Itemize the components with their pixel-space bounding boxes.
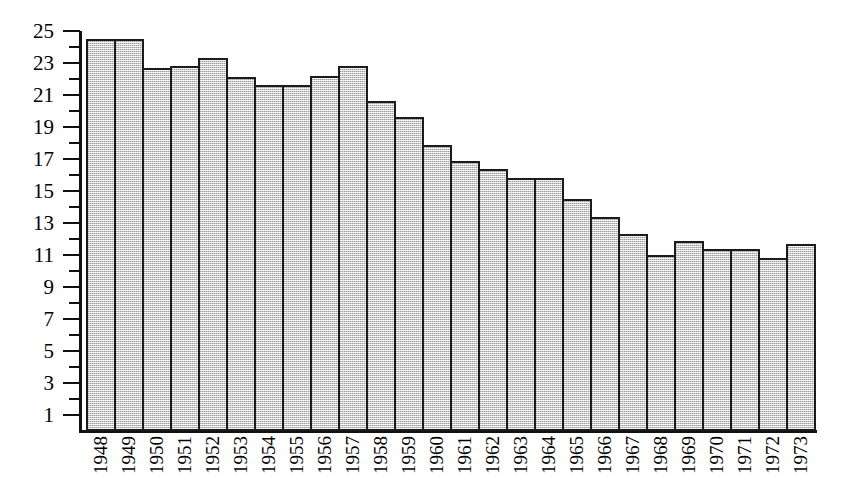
- x-axis-tick-label-text: 1952: [203, 436, 222, 474]
- x-axis-tick-label: 1957: [338, 434, 366, 494]
- x-axis-tick-label-text: 1958: [371, 436, 390, 474]
- y-axis: 135791113151719212325: [0, 0, 84, 496]
- bar-chart: 135791113151719212325 194819491950195119…: [0, 0, 843, 496]
- y-axis-tick-label: 13: [33, 213, 54, 234]
- x-axis-tick-label: 1973: [786, 434, 814, 494]
- x-axis-tick-label: 1967: [618, 434, 646, 494]
- x-axis-tick-label-text: 1954: [259, 436, 278, 474]
- x-axis-tick-label-text: 1950: [147, 436, 166, 474]
- x-axis-tick-label: 1959: [394, 434, 422, 494]
- bar: [282, 85, 312, 431]
- x-axis-tick-label: 1953: [226, 434, 254, 494]
- bar: [674, 241, 704, 431]
- y-tick-major: [63, 94, 80, 96]
- x-axis-tick-label-text: 1973: [791, 436, 810, 474]
- y-tick-major: [63, 318, 80, 320]
- bar: [142, 68, 172, 431]
- y-tick-major: [63, 30, 80, 32]
- x-axis-tick-label: 1972: [758, 434, 786, 494]
- y-axis-tick-label: 25: [33, 21, 54, 42]
- x-axis-tick-label: 1961: [450, 434, 478, 494]
- bar: [422, 145, 452, 431]
- bar: [758, 258, 788, 431]
- bar: [198, 58, 228, 431]
- bar: [338, 66, 368, 431]
- x-axis-tick-label: 1960: [422, 434, 450, 494]
- bar: [646, 255, 676, 431]
- x-axis-tick-label: 1969: [674, 434, 702, 494]
- y-tick-major: [63, 382, 80, 384]
- bar: [562, 199, 592, 431]
- x-axis-tick-label-text: 1968: [651, 436, 670, 474]
- x-axis-tick-label-text: 1966: [595, 436, 614, 474]
- x-axis-tick-label: 1971: [730, 434, 758, 494]
- bar: [534, 178, 564, 431]
- x-axis-tick-label: 1968: [646, 434, 674, 494]
- y-axis-tick-label: 5: [44, 341, 55, 362]
- bar: [170, 66, 200, 431]
- bar: [478, 169, 508, 431]
- x-axis-tick-label-text: 1953: [231, 436, 250, 474]
- bar: [618, 234, 648, 431]
- x-axis-tick-label-text: 1951: [175, 436, 194, 474]
- x-axis-labels: 1948194919501951195219531954195519561957…: [86, 434, 814, 496]
- x-axis-tick-label: 1954: [254, 434, 282, 494]
- y-tick-major: [63, 158, 80, 160]
- bar: [450, 161, 480, 431]
- y-tick-major: [63, 414, 80, 416]
- y-axis-tick-label: 23: [33, 53, 54, 74]
- x-axis-tick-label: 1966: [590, 434, 618, 494]
- plot-area: [86, 0, 814, 433]
- x-axis-tick-label: 1955: [282, 434, 310, 494]
- bar: [702, 249, 732, 431]
- x-axis-tick-label: 1951: [170, 434, 198, 494]
- y-tick-major: [63, 350, 80, 352]
- x-axis-tick-label-text: 1967: [623, 436, 642, 474]
- x-axis-tick-label-text: 1963: [511, 436, 530, 474]
- y-tick-major: [63, 222, 80, 224]
- bar: [786, 244, 816, 431]
- x-axis-tick-label-text: 1969: [679, 436, 698, 474]
- x-axis-tick-label-text: 1972: [763, 436, 782, 474]
- y-tick-major: [63, 254, 80, 256]
- x-axis-tick-label-text: 1961: [455, 436, 474, 474]
- y-axis-tick-label: 9: [44, 277, 55, 298]
- x-axis-tick-label-text: 1957: [343, 436, 362, 474]
- x-axis-tick-label-text: 1956: [315, 436, 334, 474]
- y-axis-tick-label: 1: [44, 405, 55, 426]
- x-axis-tick-label-text: 1949: [119, 436, 138, 474]
- bar: [366, 101, 396, 431]
- y-tick-major: [63, 286, 80, 288]
- y-axis-tick-label: 15: [33, 181, 54, 202]
- bar: [506, 178, 536, 431]
- y-axis-tick-label: 11: [34, 245, 54, 266]
- x-axis-tick-label-text: 1970: [707, 436, 726, 474]
- x-axis-tick-label: 1952: [198, 434, 226, 494]
- bar: [226, 77, 256, 431]
- x-axis-tick-label: 1949: [114, 434, 142, 494]
- x-axis-tick-label-text: 1962: [483, 436, 502, 474]
- bar: [730, 249, 760, 431]
- x-axis-tick-label: 1956: [310, 434, 338, 494]
- x-axis-tick-label-text: 1964: [539, 436, 558, 474]
- bar: [590, 217, 620, 431]
- x-axis-tick-label: 1964: [534, 434, 562, 494]
- y-tick-major: [63, 62, 80, 64]
- x-axis-tick-label-text: 1965: [567, 436, 586, 474]
- x-axis-tick-label-text: 1959: [399, 436, 418, 474]
- x-axis-tick-label: 1958: [366, 434, 394, 494]
- bar: [394, 117, 424, 431]
- x-axis-tick-label: 1948: [86, 434, 114, 494]
- bar: [310, 76, 340, 431]
- x-axis-tick-label-text: 1971: [735, 436, 754, 474]
- y-axis-tick-label: 7: [44, 309, 55, 330]
- y-axis-line: [79, 31, 82, 433]
- x-axis-tick-label: 1962: [478, 434, 506, 494]
- bar: [254, 85, 284, 431]
- y-tick-major: [63, 126, 80, 128]
- y-axis-tick-label: 3: [44, 373, 55, 394]
- x-axis-tick-label: 1970: [702, 434, 730, 494]
- bar: [114, 39, 144, 431]
- x-axis-tick-label: 1963: [506, 434, 534, 494]
- x-axis-tick-label: 1965: [562, 434, 590, 494]
